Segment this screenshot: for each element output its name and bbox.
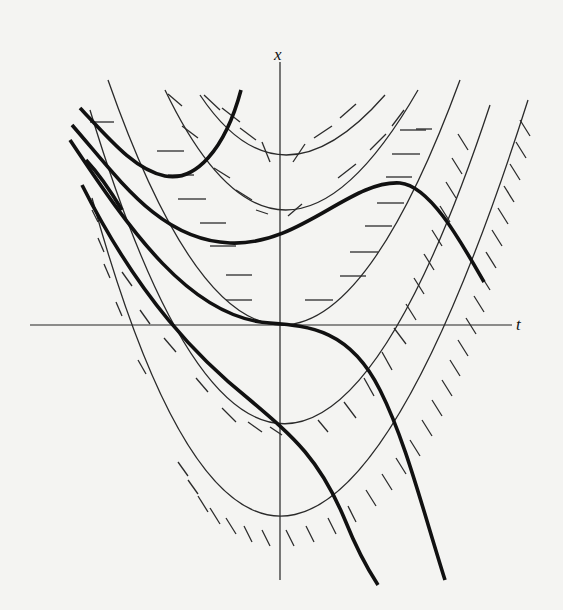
isocline-upper xyxy=(165,90,418,216)
isocline-bottom xyxy=(92,100,530,546)
slope-field-diagram: x t xyxy=(0,0,563,610)
solution-through-origin xyxy=(70,140,445,580)
x-axis-label: x xyxy=(273,45,282,64)
t-axis-label: t xyxy=(516,315,522,334)
